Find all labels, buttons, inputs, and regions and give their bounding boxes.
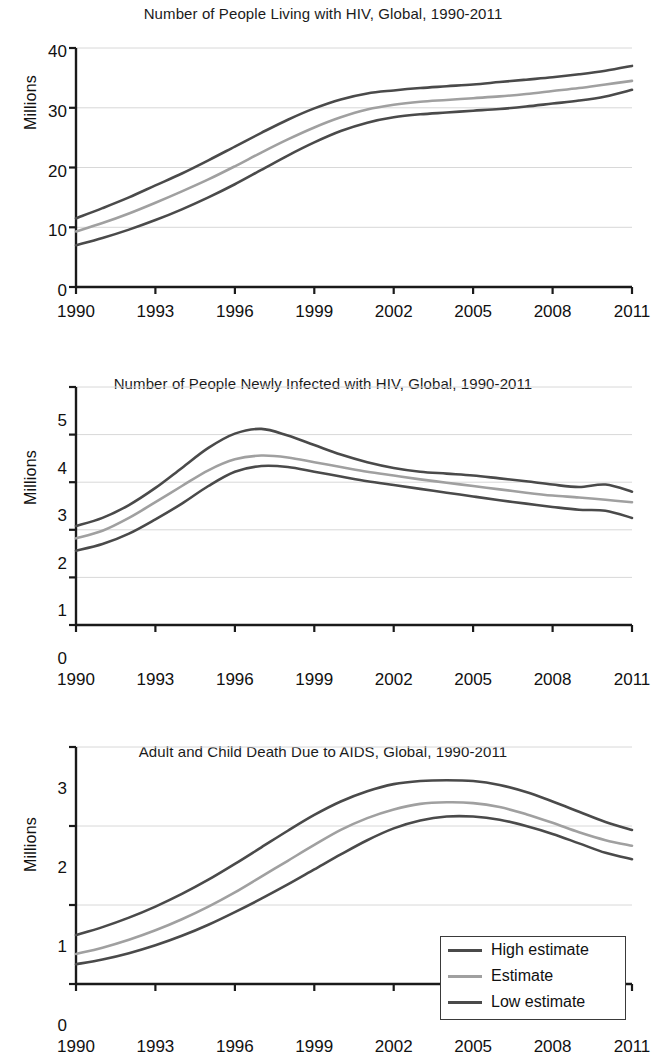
chart-legend: High estimateEstimateLow estimate (440, 936, 626, 1020)
y-tick-label: 2 (17, 554, 67, 574)
x-tick-label: 1990 (41, 1037, 111, 1057)
x-tick-label: 2002 (359, 302, 429, 322)
y-tick-label: 1 (17, 601, 67, 621)
y-tick-label: 3 (17, 779, 67, 799)
chart-svg (0, 305, 646, 665)
y-axis-label: Millions (22, 817, 40, 872)
legend-line-swatch (448, 975, 482, 978)
legend-item[interactable]: Low estimate (441, 989, 625, 1015)
x-tick-label: 2011 (597, 302, 655, 322)
y-tick-label: 0 (17, 1016, 67, 1036)
series-line (76, 466, 632, 551)
x-tick-label: 2011 (597, 670, 655, 690)
y-tick-label: 0 (17, 649, 67, 669)
y-axis-label: Millions (22, 450, 40, 505)
series-line (76, 802, 632, 954)
x-tick-label: 2008 (518, 302, 588, 322)
legend-line-swatch (448, 949, 482, 952)
chart-svg (0, 0, 646, 335)
series-line (76, 429, 632, 526)
y-tick-label: 1 (17, 937, 67, 957)
x-tick-label: 1996 (200, 1037, 270, 1057)
x-tick-label: 2011 (597, 1037, 655, 1057)
legend-item[interactable]: Estimate (441, 963, 625, 989)
x-tick-label: 2008 (518, 1037, 588, 1057)
series-line (76, 66, 632, 218)
y-tick-label: 0 (17, 281, 67, 301)
y-axis-label: Millions (22, 75, 40, 130)
series-line (76, 780, 632, 935)
plot-area (0, 22, 646, 332)
x-tick-label: 1996 (200, 302, 270, 322)
legend-line-swatch (448, 1001, 482, 1004)
x-tick-label: 1996 (200, 670, 270, 690)
y-tick-label: 5 (17, 411, 67, 431)
legend-label: Low estimate (491, 993, 585, 1011)
x-tick-label: 2005 (438, 1037, 508, 1057)
x-tick-label: 2005 (438, 670, 508, 690)
legend-label: Estimate (491, 967, 553, 985)
chart-panel-hiv-new-infections: Number of People Newly Infected with HIV… (0, 340, 646, 700)
x-tick-label: 1999 (279, 1037, 349, 1057)
x-tick-label: 2005 (438, 302, 508, 322)
y-tick-label: 10 (17, 221, 67, 241)
x-tick-label: 2002 (359, 1037, 429, 1057)
x-tick-label: 1993 (120, 670, 190, 690)
x-tick-label: 1993 (120, 302, 190, 322)
chart-panel-hiv-living: Number of People Living with HIV, Global… (0, 0, 646, 340)
y-tick-label: 40 (17, 42, 67, 62)
x-tick-label: 1990 (41, 670, 111, 690)
plot-area (0, 392, 646, 692)
legend-label: High estimate (491, 941, 589, 959)
y-tick-label: 3 (17, 506, 67, 526)
series-line (76, 455, 632, 538)
x-tick-label: 1993 (120, 1037, 190, 1057)
x-tick-label: 2008 (518, 670, 588, 690)
legend-item[interactable]: High estimate (441, 937, 625, 963)
x-tick-label: 1999 (279, 670, 349, 690)
y-tick-label: 20 (17, 162, 67, 182)
x-tick-label: 1999 (279, 302, 349, 322)
x-tick-label: 2002 (359, 670, 429, 690)
x-tick-label: 1990 (41, 302, 111, 322)
